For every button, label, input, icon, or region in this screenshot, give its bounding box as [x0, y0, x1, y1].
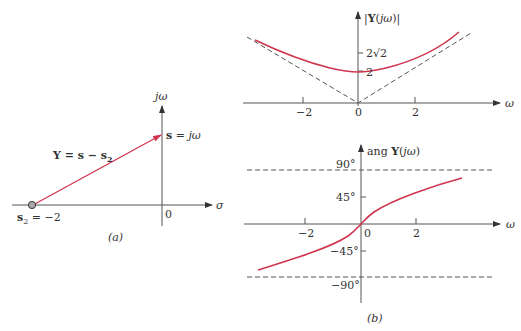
- vector-y: [33, 135, 161, 205]
- caption-b: (b): [367, 312, 383, 325]
- tick-label-y-2root2: 2√2: [366, 47, 387, 60]
- pole-marker-icon: [28, 201, 35, 208]
- tick-label-y-45: 45°: [336, 191, 356, 204]
- tick-label-y-neg45: −45°: [330, 245, 359, 258]
- phase-y-label: ang Y(jω): [367, 145, 420, 158]
- phase-x-label: ω: [506, 218, 515, 231]
- origin-label: 0: [165, 208, 172, 221]
- vector-label: Y = s − s2: [52, 149, 113, 164]
- magnitude-asymptote: [247, 33, 471, 103]
- magnitude-curve: [255, 32, 459, 72]
- tick-label-y-90: 90°: [336, 158, 356, 171]
- figure-canvas: jω σ 0 s = jω Y = s − s2 s2 = −2 (a) |Y(…: [0, 0, 521, 331]
- phase-plot: ang Y(jω) ω −2 0 2 90° 45° −45° −90° (b): [244, 145, 515, 325]
- pole-label: s2 = −2: [17, 211, 61, 226]
- tick-label-y-2: 2: [366, 66, 373, 79]
- tick-label-y-neg90: −90°: [331, 279, 360, 292]
- caption-a: (a): [108, 231, 123, 244]
- tick-label-x-neg2: −2: [296, 106, 312, 119]
- jw-axis-label: jω: [152, 90, 167, 103]
- tick-label-x-2: 2: [412, 106, 419, 119]
- tick-label-x-neg2-phase: −2: [298, 227, 314, 240]
- magnitude-plot: |Y(jω)| ω −2 0 2 2 2√2: [243, 12, 514, 119]
- magnitude-y-label: |Y(jω)|: [364, 12, 400, 26]
- sigma-axis-label: σ: [216, 199, 224, 212]
- tick-label-x-0: 0: [355, 106, 362, 119]
- tick-label-x-0-phase: 0: [364, 227, 371, 240]
- point-s-label: s = jω: [166, 129, 201, 142]
- magnitude-x-label: ω: [505, 97, 514, 110]
- panel-a-s-plane: jω σ 0 s = jω Y = s − s2 s2 = −2 (a): [12, 90, 224, 244]
- tick-label-x-2-phase: 2: [413, 227, 420, 240]
